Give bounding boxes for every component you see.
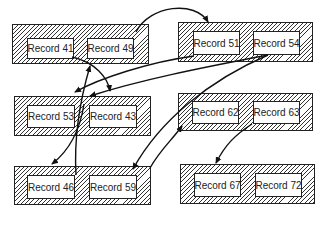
record-box: Record 41	[27, 38, 74, 59]
record-box: Record 67	[194, 173, 241, 197]
record-box: Record 49	[87, 38, 134, 59]
record-box: Record 46	[27, 175, 75, 199]
storage-block-b: Record 51Record 54	[178, 22, 313, 62]
storage-block-a: Record 41Record 49	[12, 24, 149, 64]
record-box: Record 63	[253, 101, 300, 124]
record-box: Record 51	[193, 31, 240, 55]
storage-block-c: Record 53Record 43	[14, 96, 151, 136]
record-box: Record 62	[192, 101, 239, 124]
record-box: Record 43	[89, 105, 137, 128]
record-box: Record 53	[27, 105, 75, 128]
pointer-arrow	[150, 126, 182, 168]
record-box: Record 54	[253, 31, 300, 55]
storage-block-f: Record 67Record 72	[180, 164, 315, 204]
storage-block-d: Record 62Record 63	[178, 93, 313, 131]
record-box: Record 72	[255, 173, 302, 197]
record-box: Record 59	[89, 175, 137, 199]
storage-block-e: Record 46Record 59	[14, 166, 151, 205]
